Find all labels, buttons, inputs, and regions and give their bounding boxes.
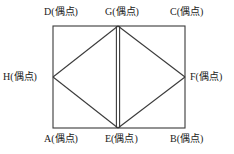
edge-E-H xyxy=(53,77,118,128)
vertex-label-E: E(偶点) xyxy=(105,133,138,145)
vertex-label-A: A(偶点) xyxy=(44,133,78,145)
vertex-label-H: H(偶点) xyxy=(3,71,37,83)
vertex-label-G: G(偶点) xyxy=(105,6,139,18)
vertex-label-B: B(偶点) xyxy=(170,133,203,145)
edge-rectangle-outline xyxy=(53,26,185,128)
vertex-label-F: F(偶点) xyxy=(190,71,222,83)
edge-H-G xyxy=(53,26,118,77)
edge-F-E xyxy=(118,77,185,128)
vertex-label-D: D(偶点) xyxy=(44,6,78,18)
figure-canvas: D(偶点) G(偶点) C(偶点) H(偶点) F(偶点) A(偶点) E(偶点… xyxy=(0,0,234,154)
vertex-label-C: C(偶点) xyxy=(170,6,203,18)
edge-G-F xyxy=(118,26,185,77)
